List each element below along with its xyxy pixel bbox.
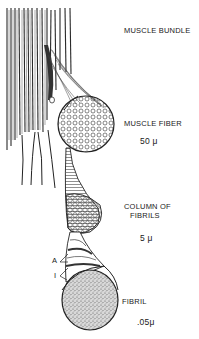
label-column-of-fibrils-line2: FIBRILS <box>130 211 160 220</box>
muscle-fiber-drawing <box>58 96 114 152</box>
label-fibril: FIBRIL <box>122 297 147 306</box>
scale-fibril: .05μ <box>137 318 155 327</box>
muscle-structure-illustration <box>0 0 199 339</box>
label-column-of-fibrils-line1: COLUMN OF <box>124 202 171 211</box>
scale-column-of-fibrils: 5 μ <box>140 234 153 243</box>
label-i-band: I <box>54 271 56 280</box>
scale-muscle-fiber: 50 μ <box>140 137 158 146</box>
fibril-drawing <box>60 232 118 330</box>
label-muscle-fiber: MUSCLE FIBER <box>124 119 182 128</box>
label-muscle-bundle: MUSCLE BUNDLE <box>124 26 190 35</box>
column-of-fibrils-drawing <box>65 148 101 233</box>
label-a-band: A <box>52 256 57 265</box>
